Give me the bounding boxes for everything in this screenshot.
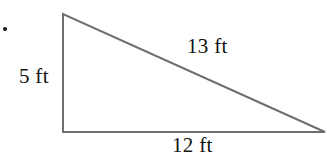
triangle-shape [0,0,327,160]
side-label-vertical-leg: 5 ft [19,66,49,87]
side-label-hypotenuse: 13 ft [187,36,228,57]
triangle-outline [63,14,325,132]
triangle-figure: 5 ft 13 ft 12 ft [0,0,327,160]
side-label-base: 12 ft [172,135,213,156]
